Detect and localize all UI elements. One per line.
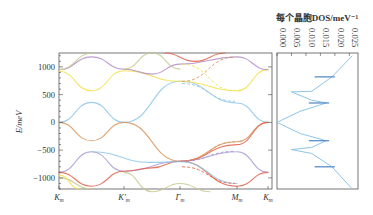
dos-tick-label: 0.025 (350, 28, 360, 47)
dos-axis-title: 每个晶胞DOS/meV⁻¹ (276, 12, 359, 23)
y-tick-label: 1000 (38, 62, 55, 72)
band-line (59, 57, 268, 74)
x-tick-label: Mm (230, 192, 242, 203)
band-plot-frame (59, 53, 272, 189)
dos-line (277, 56, 352, 189)
dos-tick-label: 0.000 (278, 28, 288, 47)
band-line-dashed (182, 64, 235, 91)
band-line (180, 122, 268, 161)
y-tick-label: 0 (51, 117, 55, 127)
band-plot: −1000−50005001000 E/meV KmK′mΓmMmKm (14, 53, 273, 203)
band-lines (59, 53, 268, 192)
x-tick-label: Γm (175, 192, 185, 203)
band-line (59, 161, 268, 186)
y-tick-label: −500 (37, 145, 55, 155)
band-line (59, 81, 268, 122)
dos-tick-label: 0.015 (321, 28, 331, 47)
x-tick-label: Km (53, 192, 64, 203)
band-line (59, 175, 80, 189)
band-line (124, 53, 180, 69)
y-tick-label: −1000 (33, 173, 55, 183)
band-line (59, 53, 92, 70)
y-axis-label: E/meV (14, 109, 24, 134)
dos-tick-label: 0.010 (307, 28, 317, 47)
dos-plot-frame (277, 53, 358, 189)
dos-tick-label: 0.020 (336, 28, 346, 47)
dos-curve (277, 56, 352, 189)
y-axis-label-unit: /meV (14, 109, 24, 129)
x-tick-label: Km (262, 192, 273, 203)
dos-tick-label: 0.005 (292, 28, 302, 47)
x-tick-label: K′m (117, 192, 130, 203)
dos-plot: 0.0000.0050.0100.0150.0200.025 每个晶胞DOS/m… (276, 12, 361, 189)
band-structure-figure: −1000−50005001000 E/meV KmK′mΓmMmKm 0.00… (0, 0, 373, 215)
band-line-dashed (182, 167, 235, 184)
band-line (165, 53, 225, 61)
band-line (59, 122, 268, 161)
dos-axis-ticks: 0.0000.0050.0100.0150.0200.025 (277, 28, 360, 56)
y-tick-label: 500 (42, 90, 55, 100)
